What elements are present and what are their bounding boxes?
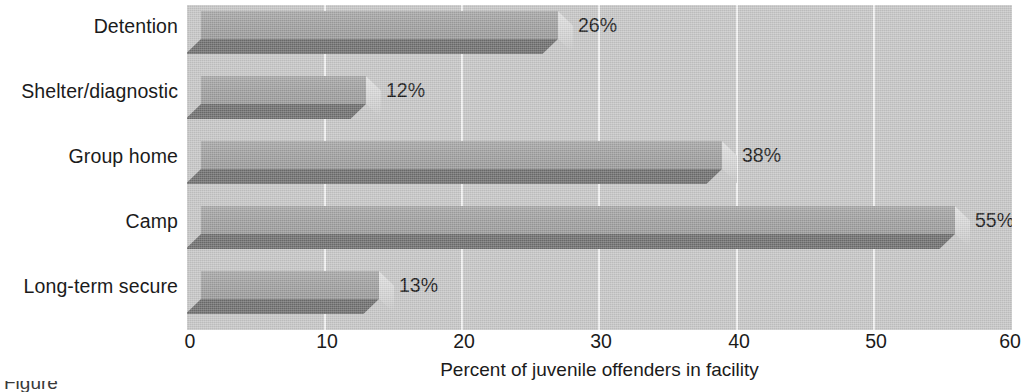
bar-top-face — [201, 206, 955, 234]
bar-end-cap — [722, 141, 737, 183]
xtick-40: 40 — [728, 332, 750, 352]
category-label-group-home: Group home — [0, 147, 178, 167]
bar-end-cap — [379, 271, 394, 313]
bar-top-face — [201, 11, 558, 39]
x-axis-title: Percent of juvenile offenders in facilit… — [187, 360, 1012, 379]
category-label-long-term-secure: Long-term secure — [0, 277, 178, 297]
bar-top-face — [201, 141, 722, 169]
figure-caption-text: Figure — [4, 381, 264, 392]
category-label-detention: Detention — [0, 17, 178, 37]
bar-front-face — [187, 39, 558, 54]
bar-top-face — [201, 76, 366, 104]
xtick-0: 0 — [185, 332, 196, 352]
category-axis: Detention Shelter/diagnostic Group home … — [0, 5, 178, 330]
bar-value-long-term-secure: 13% — [399, 276, 438, 296]
x-axis: 0 10 20 30 40 50 60 — [187, 332, 1012, 358]
bar-end-cap — [558, 11, 573, 53]
category-label-shelter-diagnostic: Shelter/diagnostic — [0, 82, 178, 102]
bar-front-face — [187, 234, 955, 249]
bar-value-shelter-diagnostic: 12% — [386, 81, 425, 101]
bar-end-cap — [366, 76, 381, 118]
xtick-50: 50 — [865, 332, 887, 352]
xtick-60: 60 — [999, 332, 1021, 352]
gridline-50 — [873, 5, 875, 330]
bar-front-face — [187, 169, 722, 184]
bar-front-face — [187, 104, 366, 119]
bar-value-camp: 55% — [975, 211, 1012, 231]
chart-figure: Detention Shelter/diagnostic Group home … — [0, 0, 1022, 392]
bar-value-group-home: 38% — [742, 146, 781, 166]
bar-top-face — [201, 271, 379, 299]
xtick-10: 10 — [316, 332, 338, 352]
bar-end-cap — [955, 206, 970, 248]
plot-area: 26% 12% 38% 55% 13% — [187, 5, 1012, 330]
figure-caption-fragment: Figure — [4, 381, 264, 392]
xtick-30: 30 — [590, 332, 612, 352]
bar-front-face — [187, 299, 379, 314]
xtick-20: 20 — [453, 332, 475, 352]
category-label-camp: Camp — [0, 212, 178, 232]
bar-value-detention: 26% — [578, 16, 617, 36]
